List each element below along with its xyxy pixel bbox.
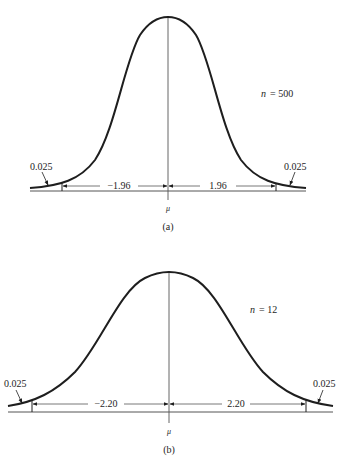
right-tail-label: 0.025 <box>313 378 336 389</box>
diagram-canvas: 0.025 0.025 −1.96 1.96 μ (a) n= 500 0.02… <box>0 0 341 465</box>
right-tail-label: 0.025 <box>284 161 307 172</box>
mean-label: μ <box>166 427 171 436</box>
panel-a: 0.025 0.025 −1.96 1.96 μ (a) n= 500 <box>30 17 307 233</box>
panel-caption: (b) <box>163 444 175 456</box>
panel-b: 0.025 0.025 −2.20 2.20 μ (b) n= 12 <box>4 272 336 456</box>
right-critical-label: 1.96 <box>209 180 227 191</box>
mean-label: μ <box>165 204 170 213</box>
panel-caption: (a) <box>162 221 173 233</box>
sample-size-label: n= 12 <box>250 304 277 315</box>
left-tail-label: 0.025 <box>30 161 53 172</box>
left-critical-label: −1.96 <box>107 180 130 191</box>
sample-size-label: n= 500 <box>261 88 293 99</box>
left-critical-label: −2.20 <box>94 398 117 409</box>
t-curve <box>8 272 333 406</box>
right-critical-label: 2.20 <box>227 398 245 409</box>
left-tail-label: 0.025 <box>4 378 27 389</box>
